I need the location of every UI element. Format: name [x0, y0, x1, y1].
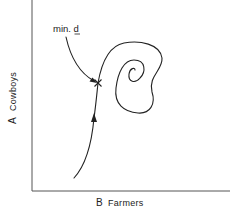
y-axis-label: A Cowboys [7, 72, 18, 124]
annotation-pointer [66, 37, 94, 81]
diagram: A Cowboys B Farmers min. d [0, 0, 245, 214]
trajectory-curve [74, 42, 162, 178]
x-axis-letter: B [96, 197, 103, 208]
x-axis-label: B Farmers [96, 197, 144, 208]
trajectory-direction-arrow [91, 113, 97, 122]
min-d-label-prefix: min. [53, 23, 74, 34]
y-axis-letter: A [7, 117, 18, 124]
x-axis-name: Farmers [108, 198, 144, 208]
min-d-label: min. d [53, 23, 79, 34]
y-axis-name: Cowboys [8, 72, 18, 111]
min-d-label-variable: d [74, 23, 79, 34]
